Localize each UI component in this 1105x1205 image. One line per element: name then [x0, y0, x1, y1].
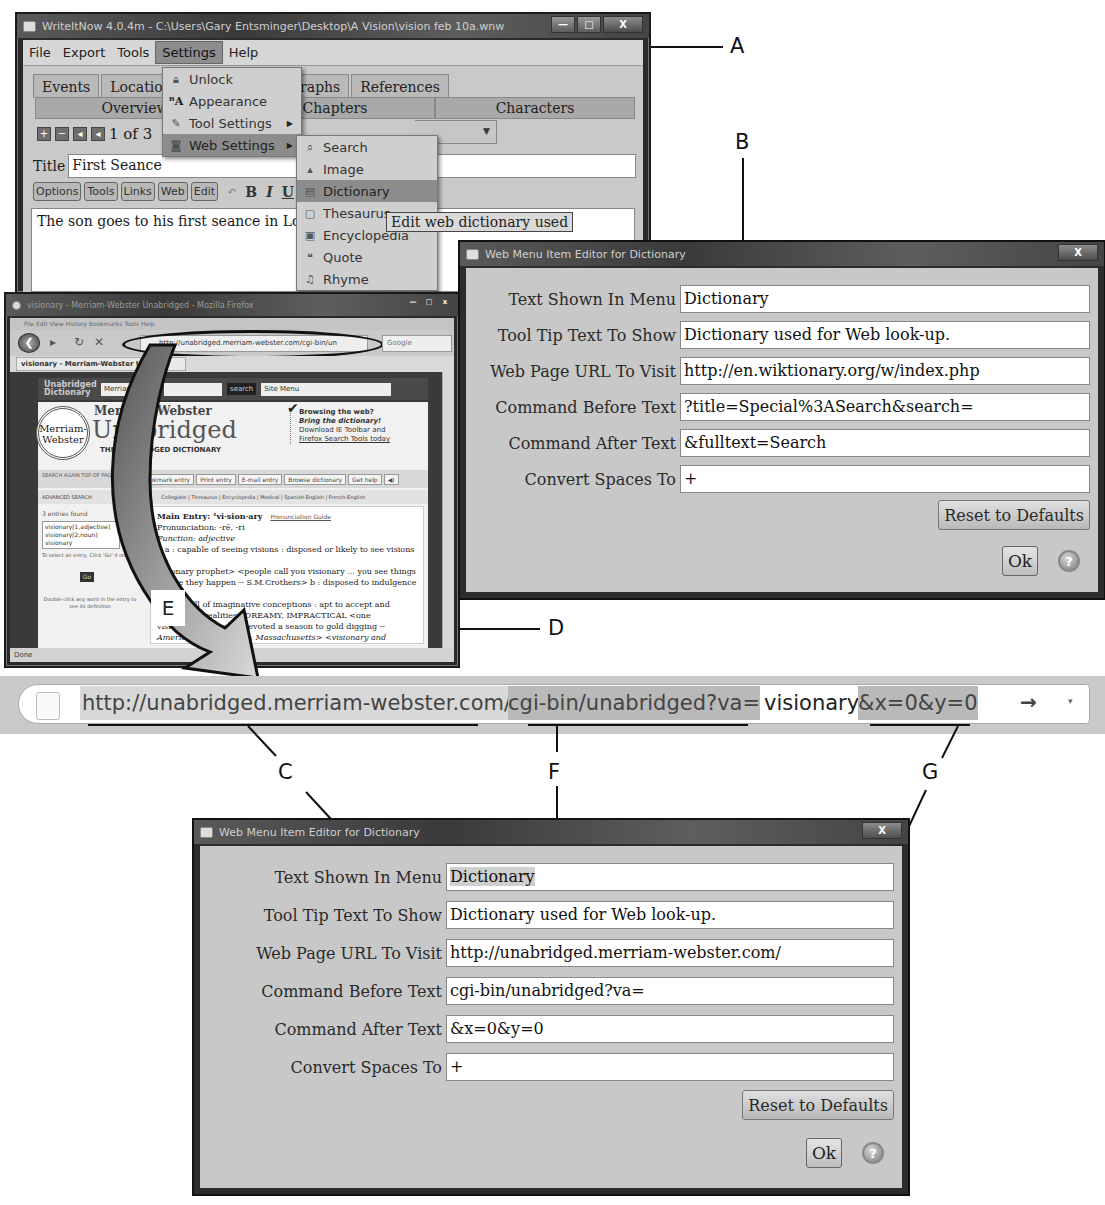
remove-record-icon[interactable]: −: [55, 127, 69, 141]
entry-option[interactable]: visionary[1,adjective]: [45, 523, 117, 531]
minimize-button[interactable]: —: [406, 296, 420, 308]
menu-help[interactable]: Help: [223, 42, 265, 63]
links-button[interactable]: Links: [121, 182, 155, 201]
command-after-input[interactable]: &x=0&y=0: [446, 1015, 894, 1043]
menu-tools[interactable]: Tools: [111, 42, 155, 63]
menu-item-unlock[interactable]: 🔒︎ Unlock: [163, 68, 301, 90]
link-french-english[interactable]: French-English: [329, 494, 365, 500]
search-again-link[interactable]: SEARCH AGAIN TOP OF PAGE: [42, 472, 114, 478]
mw-header: Unabridged Dictionary Merriam-Webster se…: [38, 378, 428, 400]
prev-record-icon[interactable]: ◂: [91, 127, 105, 141]
stop-icon[interactable]: ✕: [94, 335, 104, 349]
menu-item-search[interactable]: ⌕ Search: [297, 136, 437, 158]
mw-unabridged-title: Unabridged: [92, 416, 237, 444]
link-encyclopedia[interactable]: Encyclopedia: [222, 494, 255, 500]
browser-search-box[interactable]: Google: [382, 335, 452, 352]
command-before-input[interactable]: cgi-bin/unabridged?va=: [446, 977, 894, 1005]
browser-menubar[interactable]: File Edit View History Bookmarks Tools H…: [10, 318, 454, 330]
entry-option[interactable]: visionary[2,noun]: [45, 531, 117, 539]
help-icon[interactable]: ?: [1058, 550, 1080, 572]
options-button[interactable]: Options: [33, 182, 81, 201]
advanced-search-link[interactable]: ADVANCED SEARCH: [42, 494, 92, 500]
menu-settings[interactable]: Settings: [155, 41, 222, 64]
link-collegiate[interactable]: Collegiate: [161, 494, 186, 500]
menu-export[interactable]: Export: [57, 42, 112, 63]
first-record-icon[interactable]: ◂: [73, 127, 87, 141]
maximize-button[interactable]: □: [422, 296, 436, 308]
undo-icon[interactable]: ↶: [227, 185, 236, 198]
entries-list[interactable]: visionary[1,adjective] visionary[2,noun]…: [42, 521, 120, 549]
browse-dictionary-button[interactable]: Browse dictionary: [284, 474, 346, 485]
entry-option[interactable]: visionary: [45, 539, 117, 547]
chevron-down-icon[interactable]: ▾: [1068, 696, 1073, 706]
italic-button[interactable]: I: [266, 184, 273, 200]
tab-events[interactable]: Events: [33, 74, 99, 98]
menu-item-image[interactable]: ▴ Image: [297, 158, 437, 180]
minimize-button[interactable]: —: [551, 16, 575, 33]
tooltip-text-input[interactable]: Dictionary used for Web look-up.: [680, 321, 1090, 349]
web-url-input[interactable]: http://unabridged.merriam-webster.com/: [446, 939, 894, 967]
close-button[interactable]: X: [603, 16, 643, 33]
dialog-body: Text Shown In Menu Dictionary Tool Tip T…: [200, 846, 902, 1188]
menu-item-tool-settings[interactable]: ✎ Tool Settings ▶: [163, 112, 301, 134]
web-button[interactable]: Web: [158, 182, 188, 201]
browser-window: visionary - Merriam-Webster Unabridged -…: [4, 292, 460, 668]
close-button[interactable]: X: [862, 822, 902, 839]
browser-titlebar[interactable]: visionary - Merriam-Webster Unabridged -…: [6, 294, 458, 316]
promo-link[interactable]: Firefox Search Tools today: [299, 435, 390, 444]
promo-link[interactable]: Download IE Toolbar and: [299, 426, 390, 435]
reset-defaults-button[interactable]: Reset to Defaults: [938, 500, 1090, 530]
command-after-input[interactable]: &fulltext=Search: [680, 429, 1090, 457]
forward-icon[interactable]: ▸: [50, 335, 56, 349]
dialog-titlebar[interactable]: Web Menu Item Editor for Dictionary: [194, 820, 908, 844]
menu-item-quote[interactable]: ❝ Quote: [297, 246, 437, 268]
menu-item-dictionary[interactable]: ▤ Dictionary: [297, 180, 437, 202]
browser-scrollbar[interactable]: [442, 372, 454, 648]
go-button[interactable]: Go: [80, 572, 94, 582]
mw-entries-panel: 3 entries found visionary[1,adjective] v…: [42, 510, 138, 610]
close-button[interactable]: X: [1058, 244, 1098, 261]
add-record-icon[interactable]: +: [37, 127, 51, 141]
edit-button[interactable]: Edit: [191, 182, 218, 201]
text-shown-input[interactable]: Dictionary: [680, 285, 1090, 313]
get-help-button[interactable]: Get help: [348, 474, 382, 485]
menu-item-appearance[interactable]: ᴮA Appearance: [163, 90, 301, 112]
ok-button[interactable]: Ok: [1002, 546, 1038, 576]
print-entry-button[interactable]: Print entry: [196, 474, 236, 485]
pronunciation-guide-link[interactable]: Pronunciation Guide: [270, 513, 331, 520]
close-button[interactable]: x: [438, 296, 452, 308]
ok-button[interactable]: Ok: [806, 1138, 842, 1168]
underline-button[interactable]: U: [282, 184, 294, 200]
tooltip-text-input[interactable]: Dictionary used for Web look-up.: [446, 901, 894, 929]
tab-characters[interactable]: Characters: [435, 97, 635, 119]
link-medical[interactable]: Medical: [260, 494, 279, 500]
reload-icon[interactable]: ↻: [74, 335, 84, 349]
back-button[interactable]: ❮: [18, 333, 40, 353]
mw-search-button[interactable]: search: [227, 383, 256, 395]
email-entry-button[interactable]: E-mail entry: [238, 474, 283, 485]
reset-defaults-button[interactable]: Reset to Defaults: [742, 1090, 894, 1120]
link-spanish-english[interactable]: Spanish-English: [284, 494, 324, 500]
command-before-input[interactable]: ?title=Special%3ASearch&search=: [680, 393, 1090, 421]
bold-button[interactable]: B: [245, 184, 257, 200]
menu-item-rhyme[interactable]: ♫ Rhyme: [297, 268, 437, 290]
tools-button[interactable]: Tools: [84, 182, 117, 201]
convert-spaces-input[interactable]: +: [680, 465, 1090, 493]
browser-tab[interactable]: visionary - Merriam-Webster Un...: [16, 357, 186, 371]
mw-dictionary-select[interactable]: Merriam-Webster: [101, 383, 159, 396]
mw-site-menu[interactable]: Site Menu: [261, 383, 391, 396]
link-thesaurus[interactable]: Thesaurus: [191, 494, 217, 500]
maximize-button[interactable]: □: [577, 16, 601, 33]
help-icon[interactable]: ?: [862, 1142, 884, 1164]
menu-item-web-settings[interactable]: ◙ Web Settings ▶: [163, 134, 301, 156]
tab-references[interactable]: References: [351, 74, 449, 98]
web-url-input[interactable]: http://en.wiktionary.org/w/index.php: [680, 357, 1090, 385]
dialog-titlebar[interactable]: Web Menu Item Editor for Dictionary: [460, 242, 1104, 266]
bookmark-entry-button[interactable]: Bookmark entry: [138, 474, 194, 485]
speaker-icon[interactable]: ◀): [384, 474, 399, 485]
menu-file[interactable]: File: [23, 42, 57, 63]
mw-search-input[interactable]: [164, 383, 222, 396]
go-arrow-icon[interactable]: →: [1020, 690, 1037, 714]
text-shown-input[interactable]: Dictionary: [446, 863, 894, 891]
convert-spaces-input[interactable]: +: [446, 1053, 894, 1081]
